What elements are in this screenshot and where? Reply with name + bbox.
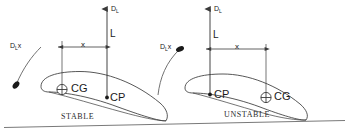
lift-arrow-sub-unstable: L: [219, 8, 222, 14]
moment-label-unstable: DLx: [160, 43, 171, 52]
caption-unstable: UNSTABLE: [224, 111, 270, 119]
cg-marker-stable: [57, 84, 67, 94]
caption-stable: STABLE: [61, 113, 94, 121]
distance-label-unstable: x: [235, 43, 239, 51]
cp-marker-stable: [105, 96, 109, 100]
lift-arrow-label-unstable: DL: [214, 5, 222, 14]
moment-label-stable: DLx: [10, 42, 21, 51]
cp-label-unstable: CP: [214, 89, 229, 100]
moment-arrow-stable: [16, 47, 41, 85]
ground-baseline: [4, 121, 345, 128]
lift-arrow-sub-stable: L: [116, 8, 119, 14]
lift-label-stable: L: [110, 29, 116, 39]
distance-label-stable: x: [81, 41, 85, 49]
moment-arrow-unstable: [158, 49, 180, 95]
moment-factor-unstable: x: [168, 43, 172, 50]
airfoil-stable: [41, 72, 167, 121]
cp-marker-unstable: [208, 93, 212, 97]
lift-arrow-label-stable: DL: [111, 5, 119, 14]
moment-factor-stable: x: [18, 42, 22, 49]
cp-label-stable: CP: [110, 92, 125, 103]
panel-unstable: [158, 9, 307, 120]
cg-label-unstable: CG: [274, 91, 291, 102]
lift-label-unstable: L: [213, 30, 219, 40]
cg-label-stable: CG: [71, 83, 88, 94]
diagram-canvas: [0, 0, 349, 139]
cg-marker-unstable: [261, 92, 271, 102]
stability-diagram: DLx DL L x CG CP STABLE DLx DL L x CP CG…: [0, 0, 349, 139]
panel-stable: [16, 9, 167, 121]
